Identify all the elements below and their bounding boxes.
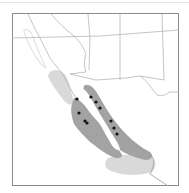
locality-dot [109,119,112,122]
locality-dot [75,97,78,100]
locality-dot [115,132,118,135]
locality-dot [94,100,97,103]
map-canvas [0,0,189,193]
range-map [0,0,189,193]
locality-dot [85,121,88,124]
locality-dot [77,111,80,114]
locality-dot [112,126,115,129]
locality-dot [98,106,101,109]
locality-dot [89,95,92,98]
